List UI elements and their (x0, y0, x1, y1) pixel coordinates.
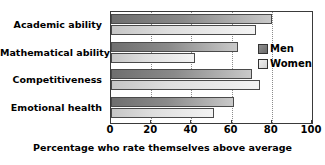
category-label-competitiveness: Competitiveness (0, 75, 102, 85)
legend-swatch-women (258, 59, 268, 69)
x-tick-label-80: 80 (264, 124, 278, 135)
category-axis-labels: Academic abilityMathematical abilityComp… (0, 11, 106, 122)
category-label-mathematical-ability: Mathematical ability (0, 48, 102, 58)
chart-legend: MenWomen (258, 42, 316, 72)
bar-group (111, 97, 312, 121)
x-tick-label-0: 0 (107, 124, 114, 135)
bar-men-mathematical-ability (111, 42, 238, 52)
legend-label-men: Men (270, 43, 294, 54)
category-label-emotional-health: Emotional health (0, 103, 102, 113)
bar-men-competitiveness (111, 69, 252, 79)
bar-women-emotional-health (111, 108, 214, 118)
bar-chart: Academic abilityMathematical abilityComp… (0, 0, 325, 165)
x-tick-label-40: 40 (183, 124, 197, 135)
bar-men-emotional-health (111, 97, 234, 107)
bar-women-mathematical-ability (111, 53, 195, 63)
x-axis-title: Percentage who rate themselves above ave… (0, 142, 325, 153)
x-tick-label-60: 60 (224, 124, 238, 135)
legend-label-women: Women (270, 58, 312, 69)
x-tick-label-20: 20 (143, 124, 157, 135)
category-label-academic-ability: Academic ability (0, 20, 102, 30)
legend-item-women: Women (258, 57, 316, 70)
x-tick-label-100: 100 (301, 124, 322, 135)
legend-swatch-men (258, 44, 268, 54)
bar-group (111, 69, 312, 93)
bar-group (111, 14, 312, 38)
bar-women-competitiveness (111, 80, 260, 90)
legend-item-men: Men (258, 42, 316, 55)
x-axis-ticks: 020406080100 (110, 124, 311, 138)
bar-men-academic-ability (111, 14, 272, 24)
bar-women-academic-ability (111, 25, 256, 35)
